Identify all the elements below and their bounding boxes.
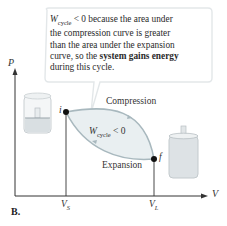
loop-w-symbol: W	[89, 126, 97, 136]
callout-line-2: the compression curve is greater	[50, 28, 220, 39]
vl-sub: L	[155, 204, 159, 211]
callout-line-4: curve, so the	[50, 51, 100, 61]
expansion-label: Expansion	[102, 160, 142, 170]
loop-w-rest: < 0	[111, 126, 126, 136]
callout-text: Wcycle < 0 because the area under the co…	[50, 14, 220, 74]
callout-line-3: than the area under the expansion	[50, 40, 220, 51]
callout-emphasis: system gains energy	[100, 51, 179, 61]
point-f-label: f	[159, 152, 162, 162]
w-symbol: W	[50, 14, 58, 24]
y-axis-arrow-icon	[13, 68, 18, 75]
expanded-cylinder-icon	[169, 126, 198, 178]
compressed-cylinder-icon	[24, 93, 51, 133]
loop-w-label: Wcycle < 0	[89, 126, 126, 138]
vl-tick-label: VL	[149, 199, 158, 211]
point-f	[151, 156, 157, 162]
loop-w-subscript: cycle	[97, 131, 111, 138]
compression-label: Compression	[106, 96, 156, 106]
callout-line-1: < 0 because the area under	[71, 14, 172, 24]
x-axis-arrow-icon	[201, 194, 208, 199]
figure-label: B.	[11, 206, 20, 217]
callout-line-5: during this cycle.	[50, 62, 220, 73]
point-i	[63, 109, 69, 115]
x-axis-label: V	[212, 188, 218, 199]
w-subscript: cycle	[58, 19, 72, 26]
vs-sub: S	[67, 204, 70, 211]
point-i-label: i	[59, 105, 62, 115]
vs-tick-label: VS	[61, 199, 70, 211]
y-axis-label: P	[8, 57, 14, 68]
